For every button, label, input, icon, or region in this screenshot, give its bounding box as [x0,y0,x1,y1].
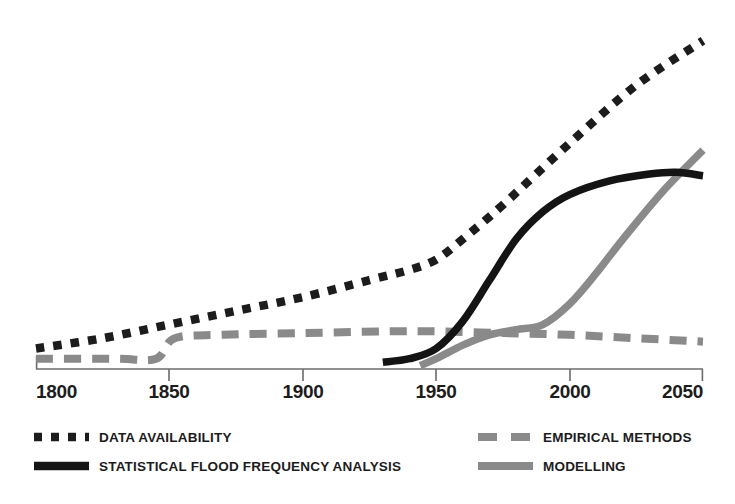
legend-item-data-availability[interactable]: DATA AVAILABILITY [34,430,232,445]
legend-label-empirical-methods: EMPIRICAL METHODS [543,430,692,445]
legend-item-modelling[interactable]: MODELLING [478,459,626,474]
legend-label-data-availability: DATA AVAILABILITY [99,430,232,445]
x-axis-tick-labels: 1800 1850 1900 1950 2000 2050 [36,381,703,402]
series-empirical-methods [36,331,703,360]
line-chart: 1800 1850 1900 1950 2000 2050 DATA AVAIL… [0,0,735,504]
series-data-availability [36,41,703,349]
x-tick-label-1950: 1950 [415,381,456,402]
legend-item-empirical-methods[interactable]: EMPIRICAL METHODS [478,430,692,445]
x-tick-label-1900: 1900 [282,381,323,402]
legend-label-modelling: MODELLING [543,459,626,474]
series-group [36,41,703,366]
legend: DATA AVAILABILITY STATISTICAL FLOOD FREQ… [34,430,692,474]
x-tick-label-2000: 2000 [549,381,590,402]
x-tick-label-1800: 1800 [36,381,77,402]
x-tick-label-1850: 1850 [148,381,189,402]
chart-container: 1800 1850 1900 1950 2000 2050 DATA AVAIL… [0,0,735,504]
legend-label-statistical-flood-frequency-analysis: STATISTICAL FLOOD FREQUENCY ANALYSIS [99,459,401,474]
legend-item-statistical-flood-frequency-analysis[interactable]: STATISTICAL FLOOD FREQUENCY ANALYSIS [34,459,401,474]
x-tick-label-2050: 2050 [662,381,703,402]
